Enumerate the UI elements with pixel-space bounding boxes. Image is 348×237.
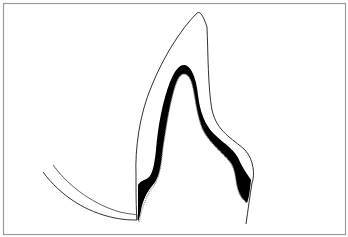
enamel-outline [136, 13, 254, 224]
gum-inner-line [53, 165, 137, 220]
diagram-frame [4, 4, 346, 235]
tooth-diagram [0, 0, 348, 237]
tooth-cross-section-svg [0, 0, 348, 237]
dentin-band [138, 65, 251, 222]
pulp-edge-dotted [139, 74, 247, 222]
